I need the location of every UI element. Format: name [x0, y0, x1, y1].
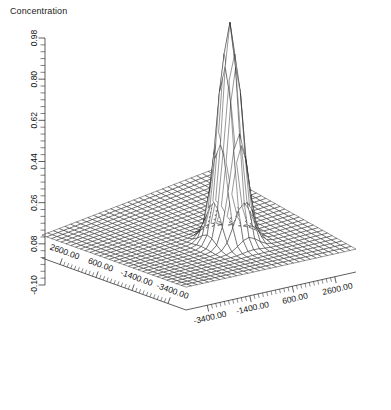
x-axis-tick-label: -3400.00	[192, 309, 227, 326]
z-axis-tick-label: 0.62	[29, 112, 39, 129]
z-axis-tick-label: 0.98	[29, 29, 39, 46]
x-axis-tick-label: 600.00	[281, 290, 309, 305]
z-axis-tick-label: 0.08	[29, 235, 39, 252]
x-axis-tick-label: 2600.00	[321, 280, 353, 297]
z-axis-tick-label: 0.44	[29, 153, 39, 170]
surface-plot-figure: Concentration -0.100.080.260.440.620.800…	[0, 0, 391, 410]
x-axis-tick-label: -1400.00	[235, 299, 270, 316]
z-axis-tick-label: 0.80	[29, 71, 39, 88]
surface-mesh	[42, 22, 356, 287]
wireframe-canvas: -0.100.080.260.440.620.800.982600.00600.…	[0, 0, 391, 410]
z-axis-tick-label: 0.26	[29, 194, 39, 211]
z-axis-tick-label: -0.10	[29, 275, 39, 295]
